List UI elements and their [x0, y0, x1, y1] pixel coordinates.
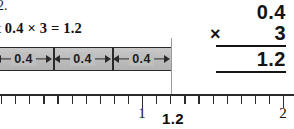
number-line-minor-tick: [72, 95, 73, 104]
bar-segment: 0.4: [0, 48, 53, 70]
number-line-minor-tick: [255, 95, 256, 104]
number-line-minor-tick: [15, 95, 16, 104]
number-line-minor-tick: [198, 95, 199, 104]
product-value: 1.2: [196, 48, 286, 70]
vertical-multiplication: 0.4 × 3 1.2: [196, 2, 286, 74]
number-line-minor-tick: [227, 95, 228, 104]
number-line-minor-tick: [57, 95, 58, 104]
bar-segment: 0.4: [112, 48, 171, 70]
multiplication-sign-icon: ×: [210, 25, 221, 44]
number-line-minor-tick: [184, 95, 185, 104]
equation-text: t 0.4 × 3 = 1.2: [0, 20, 82, 37]
product-underline: [216, 71, 286, 73]
number-line-minor-tick: [100, 95, 101, 104]
arrow-right-icon: [105, 55, 111, 63]
arrow-right-icon: [46, 55, 52, 63]
arrow-left-icon: [54, 55, 60, 63]
number-line-minor-tick: [213, 95, 214, 104]
multiplicand-row: 0.4: [196, 2, 286, 23]
bar-segment: 0.4: [53, 48, 112, 70]
segment-label: 0.4: [70, 52, 94, 66]
multiplication-rule-line: [216, 45, 286, 47]
multiplier-row: × 3: [196, 23, 286, 44]
arrow-right-icon: [164, 55, 170, 63]
tick-label-1: 1: [138, 105, 146, 122]
tick-label-2: 2: [279, 105, 287, 122]
arrow-left-icon: [0, 55, 1, 63]
number-line-minor-tick: [43, 95, 44, 104]
number-line-minor-tick: [269, 95, 270, 104]
number-line-minor-tick: [29, 95, 30, 104]
segment-label: 0.4: [129, 52, 153, 66]
worksheet-panel: 2. t 0.4 × 3 = 1.2 0.4 × 3 1.2 0.4 0.4: [0, 0, 294, 129]
problem-number: 2.: [0, 0, 8, 14]
bar-model: 0.4 0.4 0.4: [0, 47, 172, 71]
number-line-minor-tick: [1, 95, 2, 104]
segment-label: 0.4: [11, 52, 35, 66]
marker-drop-line: [171, 38, 172, 96]
number-line-minor-tick: [156, 95, 157, 104]
number-line-minor-tick: [128, 95, 129, 104]
number-line-minor-tick: [241, 95, 242, 104]
number-line-minor-tick: [170, 95, 171, 104]
number-line-minor-tick: [114, 95, 115, 104]
multiplier-value: 3: [274, 23, 286, 44]
arrow-left-icon: [113, 55, 119, 63]
number-line-minor-tick: [86, 95, 87, 104]
marker-value-label: 1.2: [162, 110, 184, 127]
